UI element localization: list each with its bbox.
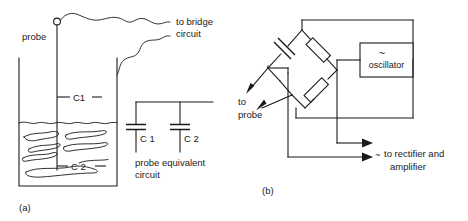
equiv-caption-line2: circuit [135,169,160,180]
figure-container: probe to bridge circuit C1 C 2 [0,0,468,221]
equiv-caption-line1: probe equivalent [135,157,206,168]
bridge-arm-upper-right-lead2 [327,59,337,70]
arrow-icon-output-lower [362,153,373,162]
to-probe-label-line1: to [238,96,246,107]
figure-svg: probe to bridge circuit C1 C 2 [0,0,468,221]
arrow-icon-output-upper [362,139,373,148]
equiv-c1-label: C 1 [140,133,155,144]
bridge-arm-lower-left-seg2 [280,81,292,95]
to-bridge-label-line1: to bridge [176,16,213,27]
bridge-arm-lower-right-lead1 [328,70,337,79]
c2-gap-label: C 2 [71,161,86,172]
ac-tilde-icon-output: ~ [375,150,380,160]
panel-a: probe to bridge circuit C1 C 2 [19,13,213,213]
liquid-surface-line [19,122,117,124]
resistor-icon-lower-right [304,78,328,102]
panel-a-caption: (a) [19,202,31,213]
bridge-arm-upper-right-lead1 [302,30,311,40]
ac-tilde-icon: ~ [379,47,385,59]
wavy-wire-icon-lower [117,36,170,75]
tank-outline [19,58,117,186]
output-label-line2: amplifier [390,161,426,172]
bridge-arm-lower-left-seg1 [268,68,280,81]
liquid-squiggle-icon [22,131,108,177]
capacitor-icon-bridge-plate-inner [274,42,291,59]
to-probe-lead-upper [251,68,268,88]
bridge-arm-upper-left-seg2 [268,54,281,68]
to-probe-label-line2: probe [238,109,262,120]
oscillator-label: oscillator [369,60,405,70]
probe-label: probe [22,31,46,42]
panel-b-caption: (b) [262,185,274,196]
wavy-wire-icon-upper [61,13,171,24]
probe-equivalent-circuit: C 1 C 2 [126,102,213,152]
output-label-line1: to rectifier and [384,148,444,159]
to-bridge-label-line2: circuit [176,28,201,39]
bridge-arm-upper-left-seg1 [288,30,302,46]
bridge-arm-lower-left-seg3 [292,95,305,108]
panel-b: ~ oscillator [238,20,444,196]
c1-gap-label: C1 [73,92,85,103]
equiv-c2-label: C 2 [184,133,199,144]
circle-terminal-icon [54,18,61,25]
